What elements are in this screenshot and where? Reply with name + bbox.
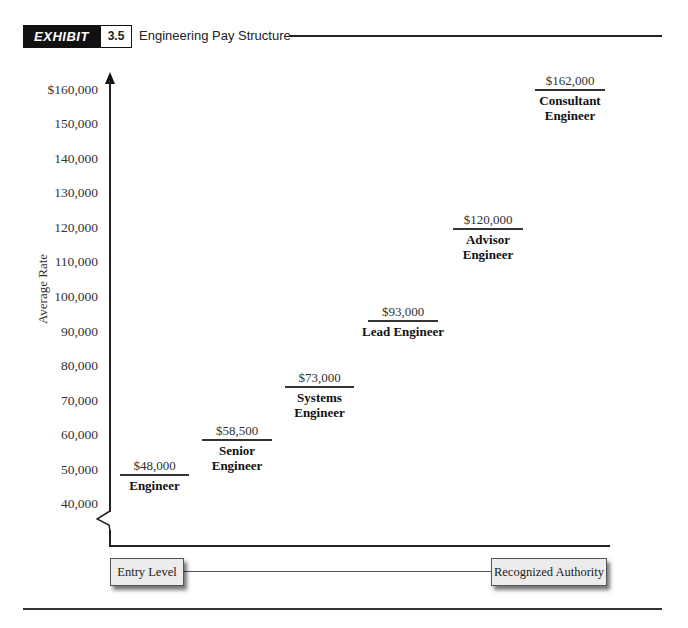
y-tick: 70,000 <box>10 393 98 409</box>
exhibit-label: EXHIBIT <box>23 25 100 48</box>
entry-level-box: Entry Level <box>110 558 184 586</box>
step-title: Engineer <box>535 108 605 123</box>
step-rule <box>285 386 354 388</box>
scale-connector <box>182 571 491 572</box>
step-title: Senior <box>202 443 272 458</box>
step-title: Engineer <box>120 478 189 493</box>
exhibit-number: 3.5 <box>100 25 132 48</box>
y-tick: 80,000 <box>10 358 98 374</box>
step-title: Engineer <box>202 458 272 473</box>
step-lead-engineer: $93,000 Lead Engineer <box>362 304 444 339</box>
y-tick: 150,000 <box>10 116 98 132</box>
step-rule <box>368 320 438 322</box>
y-tick: 110,000 <box>10 254 98 270</box>
y-tick: 120,000 <box>10 220 98 236</box>
step-title: Advisor <box>453 232 523 247</box>
header-rule <box>290 35 662 37</box>
y-tick: 140,000 <box>10 151 98 167</box>
step-title: Engineer <box>453 247 523 262</box>
step-consultant-engineer: $162,000 Consultant Engineer <box>535 73 605 123</box>
step-advisor-engineer: $120,000 Advisor Engineer <box>453 212 523 262</box>
chart-title: Engineering Pay Structure <box>139 27 291 45</box>
x-axis-line <box>109 545 610 547</box>
recognized-authority-box: Recognized Authority <box>491 558 607 586</box>
step-senior-engineer: $58,500 Senior Engineer <box>202 423 272 473</box>
step-value: $58,500 <box>202 423 272 438</box>
step-rule <box>535 89 605 91</box>
step-engineer: $48,000 Engineer <box>120 458 189 493</box>
y-tick: 40,000 <box>10 496 98 512</box>
step-value: $73,000 <box>285 370 354 385</box>
y-tick: $160,000 <box>10 82 98 98</box>
y-tick: 90,000 <box>10 324 98 340</box>
step-title: Systems <box>285 390 354 405</box>
bottom-rule <box>23 608 662 610</box>
step-rule <box>202 439 272 441</box>
axis-break-icon <box>96 510 116 532</box>
step-title: Engineer <box>285 405 354 420</box>
y-tick: 60,000 <box>10 427 98 443</box>
step-value: $48,000 <box>120 458 189 473</box>
step-title: Lead Engineer <box>362 324 444 339</box>
step-rule <box>120 474 189 476</box>
y-tick: 130,000 <box>10 185 98 201</box>
step-title: Consultant <box>535 93 605 108</box>
y-axis-line <box>109 80 111 512</box>
y-tick: 100,000 <box>10 289 98 305</box>
step-systems-engineer: $73,000 Systems Engineer <box>285 370 354 420</box>
step-value: $162,000 <box>535 73 605 88</box>
y-tick: 50,000 <box>10 462 98 478</box>
y-axis-line-lower <box>109 530 111 546</box>
step-value: $93,000 <box>362 304 444 319</box>
step-rule <box>453 228 523 230</box>
step-value: $120,000 <box>453 212 523 227</box>
